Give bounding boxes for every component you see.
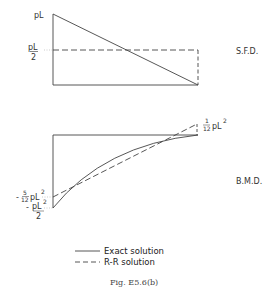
bmd-label-left2-exp: 2 xyxy=(43,198,47,205)
legend-label-exact: Exact solution xyxy=(104,246,164,256)
bmd-label-right-suffix: pL xyxy=(212,122,222,131)
sfd-title: S.F.D. xyxy=(236,47,258,56)
sfd-label-mid-den: 2 xyxy=(31,53,36,62)
diagram-canvas: pL pL 2 S.F.D. 1 12 pL 2 - 5 12 pL 2 - p… xyxy=(0,0,274,297)
sfd-diagram xyxy=(44,14,198,85)
bmd-label-left1-exp: 2 xyxy=(41,188,45,195)
figure-caption: Fig. E5.6(b) xyxy=(110,278,158,287)
bmd-exact-curve xyxy=(53,135,198,208)
bmd-label-left2-sign: - xyxy=(26,203,29,212)
sfd-exact-line xyxy=(53,14,198,85)
sfd-label-mid-num: pL xyxy=(28,43,38,52)
bmd-label-left1-suffix: pL xyxy=(30,193,40,202)
bmd-label-left2-num: pL xyxy=(32,202,42,211)
bmd-label-left1-sign: - xyxy=(16,193,19,202)
bmd-title: B.M.D. xyxy=(236,177,262,186)
bmd-label-right-exp: 2 xyxy=(223,117,227,124)
bmd-label-right-num: 1 xyxy=(205,117,209,124)
bmd-label-left2-den: 2 xyxy=(36,212,41,221)
bmd-diagram xyxy=(42,124,198,208)
legend-label-rr: R-R solution xyxy=(104,257,155,267)
sfd-label-top: pL xyxy=(34,11,44,20)
bmd-label-right-den: 12 xyxy=(203,125,211,132)
legend: Exact solution R-R solution xyxy=(75,246,164,267)
bmd-label-left1-num: 5 xyxy=(23,189,27,196)
bmd-label-left1-den: 12 xyxy=(21,196,29,203)
